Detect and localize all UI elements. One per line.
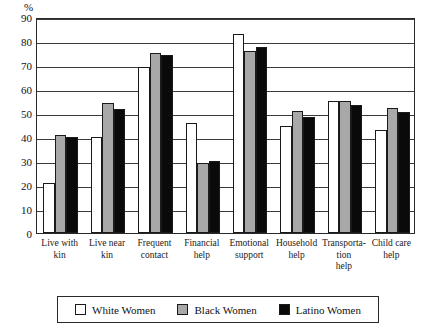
x-axis-category-label: Financialhelp: [179, 238, 225, 261]
bar[interactable]: [351, 105, 363, 233]
x-axis-category-label: Live near kin: [84, 238, 130, 261]
bar[interactable]: [328, 101, 340, 233]
bar[interactable]: [102, 103, 114, 233]
y-axis-tick-label: 40: [21, 133, 32, 144]
bar[interactable]: [161, 55, 173, 233]
x-axis-category-label: Child care help: [368, 238, 414, 261]
bars-layer: [37, 19, 414, 233]
bar[interactable]: [66, 137, 78, 233]
y-axis-tick-label: 60: [21, 85, 32, 96]
legend-swatch-icon: [75, 304, 86, 315]
legend-swatch-icon: [177, 304, 188, 315]
bar-chart: % 0102030405060708090 Live with kinLive …: [0, 0, 430, 335]
bar-group: [328, 19, 363, 233]
bar-group: [280, 19, 315, 233]
y-axis-tick-label: 0: [27, 229, 33, 240]
bar[interactable]: [209, 161, 221, 233]
x-axis-category-label: Householdhelp: [274, 238, 320, 261]
bar[interactable]: [55, 135, 67, 233]
bar[interactable]: [375, 130, 387, 233]
bar[interactable]: [292, 111, 304, 233]
bar-group: [233, 19, 268, 233]
bar-group: [375, 19, 410, 233]
bar[interactable]: [150, 53, 162, 233]
bar[interactable]: [398, 112, 410, 233]
bar[interactable]: [138, 67, 150, 233]
bar-group: [186, 19, 221, 233]
bar-group: [91, 19, 126, 233]
legend-label: Black Women: [194, 304, 256, 316]
chart-legend: White WomenBlack WomenLatino Women: [57, 296, 379, 323]
bar[interactable]: [186, 123, 198, 233]
x-axis-category-label: Frequentcontact: [131, 238, 177, 261]
y-axis-tick-label: 20: [21, 181, 32, 192]
x-axis-category-labels: Live with kinLive near kinFrequentcontac…: [36, 238, 415, 280]
x-axis-category-label: Emotionalsupport: [226, 238, 272, 261]
bar[interactable]: [114, 109, 126, 233]
y-axis-tick-label: 10: [21, 205, 32, 216]
bar[interactable]: [197, 163, 209, 233]
x-axis-category-label: Live with kin: [37, 238, 83, 261]
y-axis-tick-label: 70: [21, 61, 32, 72]
x-axis-category-label: Transporta-tionhelp: [321, 238, 367, 273]
legend-item[interactable]: Black Women: [177, 304, 256, 316]
y-axis-tick-label: 30: [21, 157, 32, 168]
bar[interactable]: [256, 47, 268, 233]
bar[interactable]: [91, 137, 103, 233]
bar[interactable]: [303, 117, 315, 233]
bar[interactable]: [387, 108, 399, 233]
bar[interactable]: [280, 126, 292, 233]
y-axis-tick-label: 90: [21, 13, 32, 24]
y-axis-tick-label: 80: [21, 37, 32, 48]
y-axis-tick-label: 50: [21, 109, 32, 120]
legend-item[interactable]: White Women: [75, 304, 155, 316]
bar-group: [138, 19, 173, 233]
bar[interactable]: [233, 34, 245, 233]
bar[interactable]: [244, 51, 256, 233]
bar-group: [43, 19, 78, 233]
y-axis-tick-labels: 0102030405060708090: [0, 18, 36, 234]
legend-swatch-icon: [279, 304, 290, 315]
bar[interactable]: [339, 101, 351, 233]
legend-label: White Women: [92, 304, 155, 316]
legend-label: Latino Women: [296, 304, 361, 316]
bar[interactable]: [43, 183, 55, 233]
legend-item[interactable]: Latino Women: [279, 304, 361, 316]
plot-area: [36, 18, 415, 234]
